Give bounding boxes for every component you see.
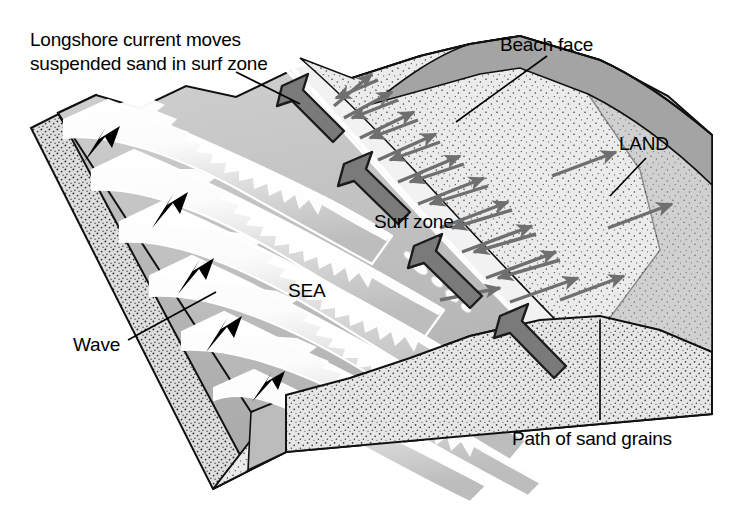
label-sea: SEA: [288, 279, 325, 302]
label-longshore-line2: suspended sand in surf zone: [30, 53, 268, 74]
label-surf-zone: Surf zone: [374, 210, 454, 233]
diagram-canvas: Longshore current movessuspended sand in…: [0, 0, 755, 510]
label-longshore-current: Longshore current movessuspended sand in…: [30, 28, 268, 76]
label-wave: Wave: [73, 333, 120, 356]
label-path-of-sand-grains: Path of sand grains: [512, 427, 672, 450]
label-land: LAND: [619, 132, 669, 155]
label-longshore-line1: Longshore current moves: [30, 29, 241, 50]
label-beach-face: Beach face: [500, 33, 593, 56]
